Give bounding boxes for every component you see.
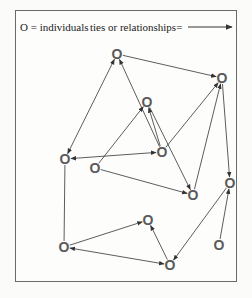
edge-F-A xyxy=(120,59,160,146)
node-C: O xyxy=(142,94,153,110)
edge-A-B xyxy=(123,55,216,76)
edge-J-D xyxy=(64,165,65,241)
node-J: O xyxy=(59,239,70,255)
node-H: O xyxy=(225,175,236,191)
edge-L-H xyxy=(220,189,229,239)
edge-J-I xyxy=(70,222,143,245)
nodes-layer: OOOOOOOOOOOO xyxy=(59,46,236,273)
node-B: O xyxy=(217,70,228,86)
edge-A-D xyxy=(68,59,115,153)
node-A: O xyxy=(112,46,123,62)
node-F: O xyxy=(157,144,168,160)
edge-G-B xyxy=(194,84,220,189)
edge-E-G xyxy=(101,170,187,194)
network-diagram: OOOOOOOOOOOO xyxy=(0,0,252,298)
edge-K-J xyxy=(70,248,164,264)
node-L: O xyxy=(214,237,225,253)
node-D: O xyxy=(60,151,71,167)
node-K: O xyxy=(165,257,176,273)
node-E: O xyxy=(90,160,101,176)
edge-K-I xyxy=(151,225,168,259)
edge-F-B xyxy=(166,83,218,148)
edge-B-H xyxy=(222,84,229,177)
node-I: O xyxy=(143,212,154,228)
edge-D-F xyxy=(71,152,156,158)
node-G: O xyxy=(188,187,199,203)
